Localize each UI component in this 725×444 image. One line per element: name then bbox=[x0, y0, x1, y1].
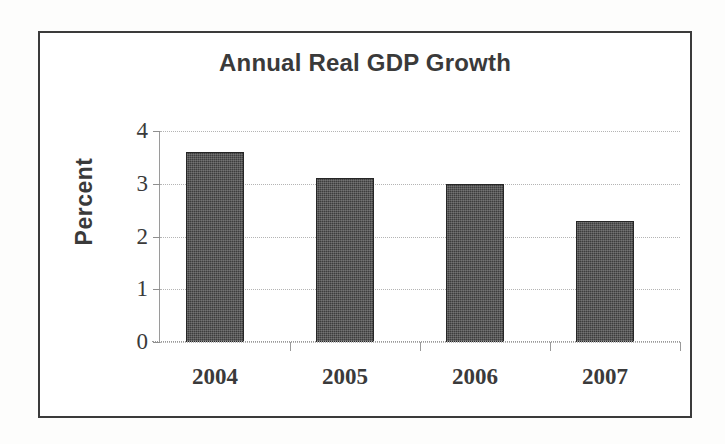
x-axis-category-label: 2004 bbox=[192, 364, 238, 390]
x-axis-category-label: 2005 bbox=[322, 364, 368, 390]
y-axis-tick-label: 1 bbox=[137, 276, 149, 302]
y-axis-tick-label: 4 bbox=[137, 118, 149, 144]
chart-title: Annual Real GDP Growth bbox=[40, 49, 690, 77]
x-axis-category-label: 2007 bbox=[582, 364, 628, 390]
bar bbox=[316, 178, 374, 342]
y-axis-title: Percent bbox=[71, 137, 98, 267]
y-axis-tick bbox=[153, 131, 160, 132]
y-axis-tick-label: 3 bbox=[137, 171, 149, 197]
y-axis-tick-label: 0 bbox=[137, 329, 149, 355]
scanned-page: Annual Real GDP Growth Percent 43210 200… bbox=[0, 0, 725, 444]
plot-area: 43210 bbox=[160, 131, 680, 342]
chart-frame: Annual Real GDP Growth Percent 43210 200… bbox=[38, 31, 692, 418]
y-axis-tick-label: 2 bbox=[137, 224, 149, 250]
bar bbox=[186, 152, 244, 342]
bar bbox=[576, 221, 634, 342]
y-axis-tick bbox=[153, 184, 160, 185]
bar bbox=[446, 184, 504, 342]
y-axis-tick bbox=[153, 289, 160, 290]
gridline bbox=[160, 131, 680, 132]
x-axis-tick bbox=[680, 342, 681, 351]
x-axis-category-label: 2006 bbox=[452, 364, 498, 390]
x-axis-category-labels: 2004200520062007 bbox=[160, 342, 680, 392]
y-axis-tick bbox=[153, 237, 160, 238]
y-axis-tick bbox=[153, 342, 160, 343]
